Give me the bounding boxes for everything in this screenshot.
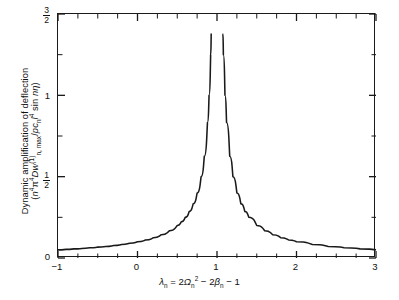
- y-label-c: c: [30, 123, 40, 128]
- x-label-minus-term-two: − 1: [224, 276, 240, 287]
- y-tick-label-three-halves: 3 2: [22, 6, 50, 24]
- y-label-n: n: [30, 191, 40, 196]
- y-tick-label-one-half: 1 2: [22, 171, 50, 189]
- fraction-numerator: 3: [43, 6, 50, 15]
- data-series-layer: [58, 34, 376, 250]
- fraction-denominator: 2: [43, 180, 50, 190]
- x-tick-label-two: 2: [281, 261, 311, 272]
- fraction-numerator: 1: [43, 171, 50, 180]
- axis-ticks: [58, 14, 376, 258]
- x-label-equals: = 2: [167, 276, 183, 287]
- y-label-w-superscript: (1): [28, 156, 35, 164]
- fraction-one-half: 1 2: [43, 171, 50, 189]
- x-axis-label: λn = 2Ωn2 − 2βn − 1: [0, 276, 399, 287]
- y-label-l-exponent: 4: [28, 114, 35, 118]
- fraction-three-halves: 3 2: [43, 6, 50, 24]
- x-label-omega: Ω: [184, 276, 191, 287]
- y-label-paren-open: (: [30, 197, 40, 200]
- x-tick-label-one: 1: [201, 261, 231, 272]
- chart-figure: Dynamic amplification of deflection (n4π…: [0, 0, 399, 300]
- curve-right-branch: [223, 34, 376, 250]
- y-label-divide: /: [30, 133, 40, 136]
- y-label-p: p: [30, 128, 40, 133]
- y-axis-label: Dynamic amplification of deflection (n4π…: [14, 26, 46, 256]
- x-tick-label-minus-one: −1: [42, 261, 72, 272]
- y-label-w-subscript: n, max: [35, 136, 42, 156]
- fraction-denominator: 2: [43, 15, 50, 25]
- y-label-c-subscript: n: [35, 119, 42, 123]
- y-label-l: l: [30, 117, 40, 119]
- x-tick-label-three: 3: [360, 261, 390, 272]
- y-label-w: w: [30, 164, 40, 171]
- curve-left-branch: [58, 34, 211, 250]
- y-tick-label-one: 1: [22, 90, 50, 101]
- x-tick-label-zero: 0: [122, 261, 152, 272]
- x-label-minus-term-one: − 2: [198, 276, 214, 287]
- y-label-paren-close: ): [30, 82, 40, 85]
- chart-canvas: [58, 14, 376, 258]
- plot-area: [57, 13, 375, 257]
- x-label-omega-subscript: n: [191, 282, 195, 289]
